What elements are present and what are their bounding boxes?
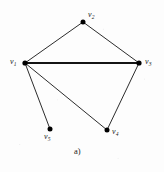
- vertex-label-v4: v4: [112, 128, 118, 136]
- graph-edge-v2-v3: [83, 22, 139, 63]
- vertex-label-subscript-v4: 4: [116, 131, 119, 137]
- vertex-label-subscript-v2: 2: [92, 14, 95, 20]
- vertex-label-v3: v3: [145, 58, 151, 66]
- vertex-label-v1: v1: [10, 58, 16, 66]
- graph-vertex-v2: [81, 20, 86, 25]
- graph-canvas: [0, 0, 164, 172]
- vertex-label-subscript-v3: 3: [149, 61, 152, 67]
- graph-vertex-v3: [136, 60, 141, 65]
- graph-figure: v1v2v3v4v5 a): [0, 0, 164, 172]
- figure-caption: a): [74, 147, 81, 156]
- edge-layer: [25, 22, 139, 130]
- graph-vertex-v1: [22, 60, 27, 65]
- vertex-label-subscript-v1: 1: [14, 61, 17, 67]
- vertex-label-v2: v2: [88, 11, 94, 19]
- graph-vertex-v5: [48, 127, 53, 132]
- vertex-label-subscript-v5: 5: [48, 136, 51, 142]
- graph-edge-v1-v2: [25, 22, 83, 63]
- graph-vertex-v4: [105, 128, 110, 133]
- graph-edge-v3-v4: [107, 63, 139, 130]
- vertex-label-v5: v5: [44, 133, 50, 141]
